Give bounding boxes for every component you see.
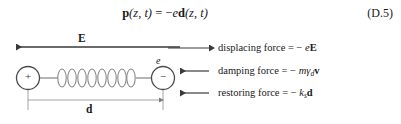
force-scalar-damping: mγ xyxy=(299,65,311,76)
positive-sign-label: + xyxy=(20,70,36,83)
equation-rhs-args: (z, t) xyxy=(185,6,208,20)
force-label-displacing: displacing force = − eE xyxy=(218,42,317,54)
electron-charge-label: e xyxy=(156,54,160,67)
negative-sign-label: − xyxy=(155,70,171,83)
equation-rhs-vector: d xyxy=(178,6,185,20)
displacement-label-d: d xyxy=(86,103,92,116)
force-label-restoring: restoring force = − ksd xyxy=(218,87,313,102)
force-vector-restoring: d xyxy=(307,87,313,98)
force-vector-damping: v xyxy=(314,65,319,76)
force-label-damping: damping force = − mγdv xyxy=(218,65,319,80)
equation-row: p(z, t) = −ed(z, t) (D.5) xyxy=(0,0,401,30)
diagram-graphics xyxy=(0,30,401,124)
force-vector-displacing: E xyxy=(310,42,317,53)
dipole-diagram: E e + − d displacing force = − eE dampin… xyxy=(0,30,401,124)
field-label-E: E xyxy=(78,32,86,45)
equation-equals: = xyxy=(155,6,162,20)
force-prefix-restoring: restoring force = − xyxy=(218,87,299,98)
equation-number: (D.5) xyxy=(367,5,393,21)
spring-coil-icon xyxy=(58,69,135,87)
force-prefix-damping: damping force = − xyxy=(218,65,299,76)
equation-expression: p(z, t) = −ed(z, t) xyxy=(0,5,330,21)
displacement-dimension-line xyxy=(28,90,163,110)
force-prefix-displacing: displacing force = − xyxy=(218,42,305,53)
equation-lhs-args: (z, t) xyxy=(129,6,152,20)
